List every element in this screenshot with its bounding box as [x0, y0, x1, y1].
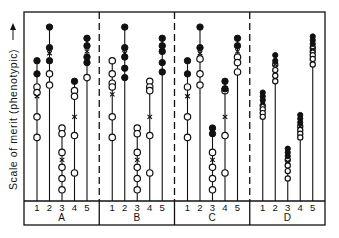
open-circle-point: [71, 170, 77, 176]
open-circle-point: [197, 82, 203, 88]
open-circle-point: [209, 164, 215, 170]
open-circle-point: [184, 134, 190, 140]
filled-circle-point: [84, 43, 90, 49]
open-circle-point: [310, 62, 315, 67]
open-circle-point: [234, 69, 240, 75]
filled-circle-point: [234, 43, 240, 49]
family-tick-label: 4: [147, 202, 152, 213]
open-circle-point: [134, 164, 140, 170]
family-tick-label: 2: [47, 202, 52, 213]
open-circle-point: [59, 187, 65, 193]
filled-circle-point: [122, 74, 128, 80]
chart-figure: 12345123451234512345 ABCD Scale of merit…: [0, 0, 339, 238]
group-label-b: B: [134, 212, 141, 223]
open-circle-point: [310, 56, 315, 61]
family-tick-label: 2: [197, 202, 202, 213]
open-circle-point: [109, 134, 115, 140]
family-tick-label: 1: [260, 202, 265, 213]
open-circle-point: [209, 175, 215, 181]
open-circle-point: [59, 164, 65, 170]
family-tick-label: 1: [110, 202, 115, 213]
filled-circle-point: [159, 59, 165, 65]
open-circle-point: [134, 130, 140, 136]
group-label-a: A: [58, 212, 65, 223]
filled-circle-point: [159, 35, 165, 41]
open-circle-point: [209, 187, 215, 193]
open-circle-point: [46, 82, 52, 88]
open-circle-point: [147, 87, 153, 93]
filled-circle-point: [222, 78, 228, 84]
open-circle-point: [273, 73, 278, 78]
filled-circle-point: [184, 71, 190, 77]
filled-circle-point: [84, 59, 90, 65]
filled-circle-point: [122, 65, 128, 71]
open-circle-point: [109, 84, 115, 90]
open-circle-point: [59, 149, 65, 155]
open-circle-point: [222, 132, 228, 138]
open-circle-point: [222, 170, 228, 176]
open-circle-point: [197, 56, 203, 62]
open-circle-point: [34, 134, 40, 140]
family-tick-label: 1: [185, 202, 190, 213]
family-tick-label: 4: [222, 202, 227, 213]
filled-circle-point: [46, 24, 52, 30]
open-circle-point: [234, 59, 240, 65]
open-circle-point: [147, 170, 153, 176]
family-tick-label: 4: [72, 202, 77, 213]
open-circle-point: [209, 149, 215, 155]
open-circle-point: [273, 79, 278, 84]
filled-circle-point: [184, 58, 190, 64]
open-circle-point: [134, 149, 140, 155]
filled-circle-point: [84, 35, 90, 41]
filled-circle-point: [285, 154, 290, 159]
group-label-d: D: [284, 212, 291, 223]
open-circle-point: [260, 114, 265, 119]
filled-circle-point: [159, 69, 165, 75]
family-tick-label: 1: [34, 202, 39, 213]
open-circle-point: [59, 130, 65, 136]
open-circle-point: [273, 68, 278, 73]
filled-circle-point: [71, 78, 77, 84]
filled-circle-point: [34, 58, 40, 64]
filled-circle-point: [46, 58, 52, 64]
family-tick-label: 5: [84, 202, 89, 213]
open-circle-point: [84, 74, 90, 80]
open-circle-point: [109, 71, 115, 77]
open-circle-point: [134, 187, 140, 193]
y-axis-label: Scale of merit (phenotypic): [7, 49, 19, 190]
family-tick-label: 5: [235, 202, 240, 213]
y-axis-label-group: Scale of merit (phenotypic): [7, 23, 19, 190]
filled-circle-point: [310, 41, 315, 46]
family-tick-label: 2: [273, 202, 278, 213]
family-tick-label: 5: [160, 202, 165, 213]
filled-circle-point: [122, 44, 128, 50]
filled-circle-point: [197, 44, 203, 50]
open-circle-point: [285, 168, 290, 173]
y-axis-arrow-icon: [10, 23, 16, 30]
open-circle-point: [134, 175, 140, 181]
filled-circle-point: [46, 44, 52, 50]
open-circle-point: [285, 176, 290, 181]
family-tick-label: 5: [310, 202, 315, 213]
family-tick-label: 4: [298, 202, 303, 213]
open-circle-point: [184, 114, 190, 120]
open-circle-point: [109, 114, 115, 120]
filled-circle-point: [34, 71, 40, 77]
family-tick-label: 2: [122, 202, 127, 213]
open-circle-point: [34, 114, 40, 120]
group-label-c: C: [209, 212, 216, 223]
filled-circle-point: [273, 53, 278, 58]
open-circle-point: [184, 84, 190, 90]
open-circle-point: [147, 132, 153, 138]
open-circle-point: [46, 71, 52, 77]
filled-circle-point: [209, 130, 215, 136]
open-circle-point: [59, 175, 65, 181]
filled-circle-point: [122, 24, 128, 30]
open-circle-point: [197, 71, 203, 77]
filled-circle-point: [234, 35, 240, 41]
open-circle-point: [109, 58, 115, 64]
open-circle-point: [71, 93, 77, 99]
filled-circle-point: [197, 24, 203, 30]
open-circle-point: [71, 132, 77, 138]
open-circle-point: [298, 135, 303, 140]
